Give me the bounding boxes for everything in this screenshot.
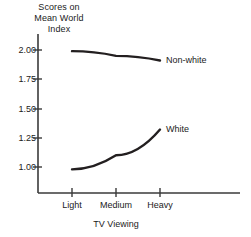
series-label-white: White [166, 124, 189, 134]
plot-area [0, 0, 251, 237]
series-label-non-white: Non-white [166, 55, 207, 65]
series-line-non-white [72, 51, 160, 60]
chart-figure: Scores on Mean World Index 2.00 1.75 1.5… [0, 0, 251, 237]
series-line-white [72, 130, 160, 170]
